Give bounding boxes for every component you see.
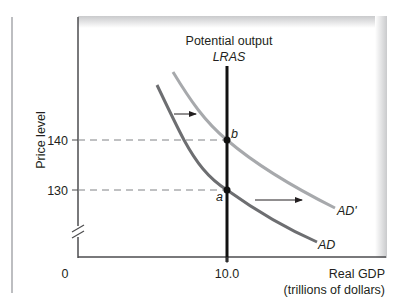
x-tick-label-10: 10.0 [215,267,239,281]
lras-label: LRAS [213,50,246,64]
y-tick-label-140: 140 [47,134,68,148]
ad-prime-label: AD' [336,204,357,218]
point-b [224,137,231,144]
ad-label: AD [317,238,335,252]
ad-curve [157,85,317,242]
y-tick-label-130: 130 [47,184,68,198]
point-a [224,187,231,194]
title-potential-output: Potential output [186,34,273,48]
ad-prime-curve [173,72,335,208]
ad-lras-chart: Potential output LRAS Price level 140 13… [0,0,406,308]
y-axis-label: Price level [34,111,48,169]
panel-top-shade [78,16,387,28]
panel-right-shade [375,16,387,258]
origin-label: 0 [62,267,69,281]
point-a-label: a [216,190,223,204]
x-axis-label: Real GDP [329,267,385,281]
axis-break-mark [72,225,84,232]
axis-break-mark [72,231,84,238]
x-axis-units: (trillions of dollars) [284,283,385,297]
point-b-label: b [231,127,238,141]
